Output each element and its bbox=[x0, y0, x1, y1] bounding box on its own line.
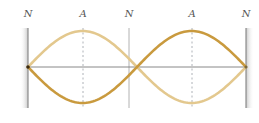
standing-wave-diagram: N A N A N bbox=[0, 0, 259, 123]
antinode-label-left: A bbox=[79, 9, 86, 19]
antinode-label-right: A bbox=[188, 9, 195, 19]
left-node-dot bbox=[26, 65, 30, 69]
right-wall bbox=[246, 28, 254, 108]
node-label-middle: N bbox=[125, 9, 134, 19]
node-label-left: N bbox=[24, 9, 33, 19]
right-node-dot bbox=[245, 66, 248, 69]
node-label-right: N bbox=[242, 9, 251, 19]
